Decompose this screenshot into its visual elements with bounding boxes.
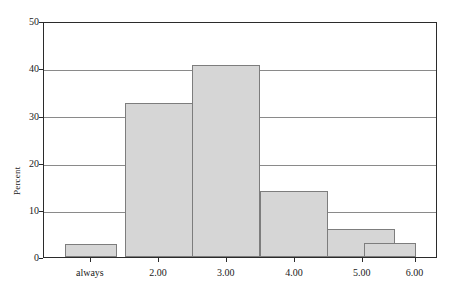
x-tick-mark <box>90 258 91 262</box>
bar-6 <box>364 243 416 257</box>
x-tick-label-always: always <box>55 267 125 279</box>
x-tick-mark <box>294 258 295 262</box>
bar-4 <box>260 191 328 257</box>
bar-2 <box>125 103 193 257</box>
x-tick-mark <box>158 258 159 262</box>
x-tick-label-4: 4.00 <box>259 267 329 279</box>
plot-area <box>43 22 437 258</box>
y-axis-tick-labels: 50 40 30 20 10 0 <box>15 0 39 301</box>
x-tick-label-3: 3.00 <box>191 267 261 279</box>
x-tick-label-2: 2.00 <box>123 267 193 279</box>
x-axis: always 2.00 3.00 4.00 5.00 6.00 <box>43 258 437 301</box>
y-tick-label: 30 <box>17 112 39 122</box>
x-tick-mark <box>415 258 416 262</box>
y-tick-label: 20 <box>17 159 39 169</box>
x-tick-mark <box>226 258 227 262</box>
y-tick-label: 10 <box>17 206 39 216</box>
y-tick-label: 40 <box>17 64 39 74</box>
bar-always <box>65 244 117 257</box>
histogram-chart: Percent 50 40 30 20 10 0 alway <box>0 0 456 301</box>
x-tick-label-6: 6.00 <box>380 267 450 279</box>
bar-3 <box>192 65 260 257</box>
y-tick-label: 50 <box>17 17 39 27</box>
y-tick-label: 0 <box>17 253 39 263</box>
x-tick-mark <box>362 258 363 262</box>
